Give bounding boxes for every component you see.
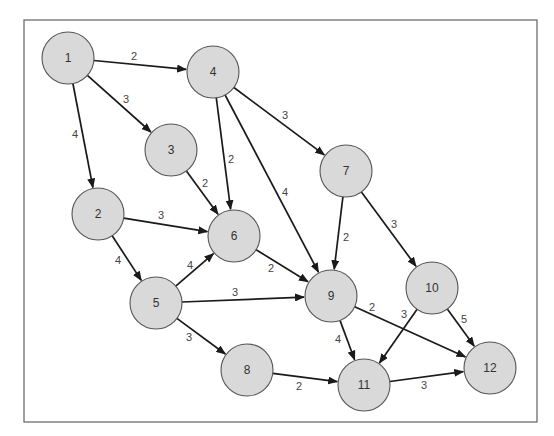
edge-weight-label: 3: [123, 93, 129, 105]
edge-weight-label: 4: [115, 254, 121, 266]
node-12: 12: [464, 342, 516, 394]
edge-weight-label: 2: [131, 50, 137, 62]
edge-weight-label: 3: [158, 209, 164, 221]
node-label: 5: [153, 296, 160, 310]
edge-weight-label: 3: [391, 218, 397, 230]
node-label: 1: [65, 51, 72, 65]
node-8: 8: [221, 344, 273, 396]
edge-weight-label: 2: [268, 262, 274, 274]
network-diagram: 234243234433223423523 123456789101112: [0, 0, 554, 436]
edge-weight-label: 4: [282, 186, 288, 198]
node-label: 11: [358, 378, 371, 392]
node-5: 5: [130, 277, 182, 329]
edge-weight-label: 3: [421, 379, 427, 391]
node-9: 9: [305, 270, 357, 322]
node-label: 9: [328, 289, 335, 303]
node-4: 4: [187, 46, 239, 98]
node-label: 6: [231, 229, 238, 243]
node-7: 7: [320, 145, 372, 197]
edge-weight-label: 2: [343, 231, 349, 243]
node-11: 11: [338, 359, 390, 411]
edge-weight-label: 3: [232, 286, 238, 298]
node-label: 12: [483, 361, 497, 375]
edge-weight-label: 3: [186, 331, 192, 343]
node-label: 10: [425, 281, 439, 295]
node-1: 1: [42, 32, 94, 84]
edge-weight-label: 2: [202, 177, 208, 189]
edge-weight-label: 5: [461, 313, 467, 325]
edge-weight-label: 3: [401, 308, 407, 320]
edge-weight-label: 2: [296, 380, 302, 392]
node-10: 10: [406, 262, 458, 314]
edge-weight-label: 4: [335, 333, 341, 345]
node-label: 7: [343, 164, 350, 178]
edge-weight-label: 2: [228, 153, 234, 165]
node-2: 2: [72, 188, 124, 240]
edge-weight-label: 2: [369, 301, 375, 313]
node-3: 3: [145, 124, 197, 176]
node-label: 4: [210, 65, 217, 79]
edge-weight-label: 4: [187, 259, 193, 271]
node-label: 2: [95, 207, 102, 221]
node-label: 8: [244, 363, 251, 377]
node-label: 3: [168, 143, 175, 157]
edge-weight-label: 3: [282, 109, 288, 121]
node-6: 6: [208, 210, 260, 262]
edge-weight-label: 4: [72, 128, 78, 140]
